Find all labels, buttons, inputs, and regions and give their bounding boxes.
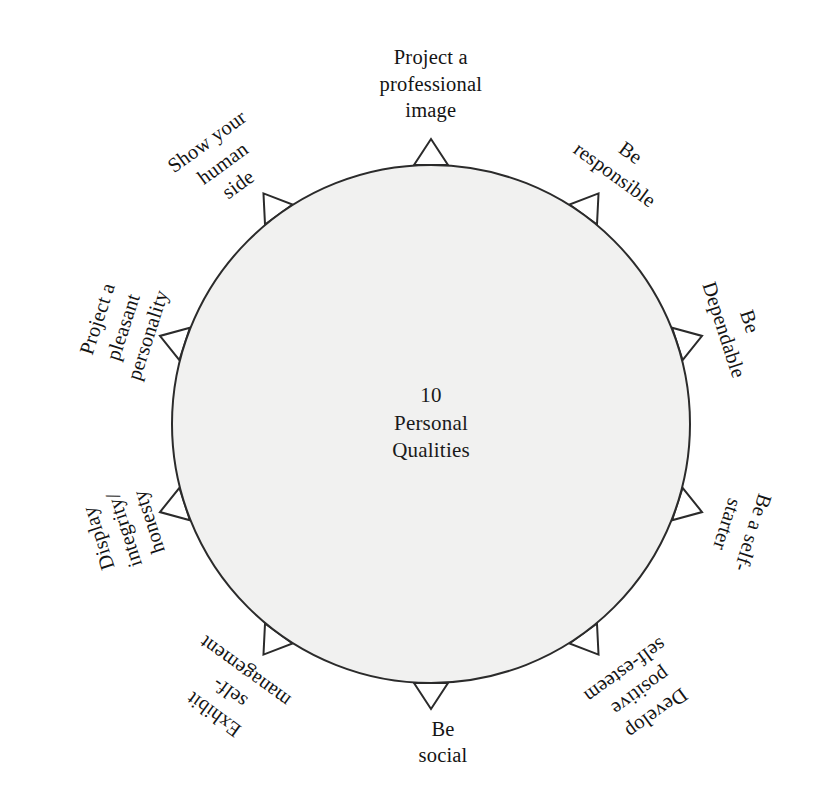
spoke-label-line: image (380, 97, 483, 124)
personal-qualities-diagram: 10PersonalQualities Project aprofessiona… (0, 0, 830, 803)
center-label-line-2: Personal (392, 410, 470, 438)
spoke-label-line: professional (380, 71, 483, 98)
spoke-label-project-a-professional-image: Project aprofessionalimage (380, 44, 483, 124)
spoke-label-be-social: Besocial (419, 716, 468, 769)
spoke-label-line: Project a (380, 44, 483, 71)
triangle-marker-project-a-professional-image (414, 139, 448, 165)
center-label-line-3: Qualities (392, 438, 470, 466)
center-label-line-1: 10 (392, 382, 470, 410)
spoke-label-line: social (419, 742, 468, 769)
center-label: 10PersonalQualities (392, 382, 470, 465)
triangle-marker-be-social (414, 683, 448, 709)
spoke-label-line: Be (419, 716, 468, 743)
